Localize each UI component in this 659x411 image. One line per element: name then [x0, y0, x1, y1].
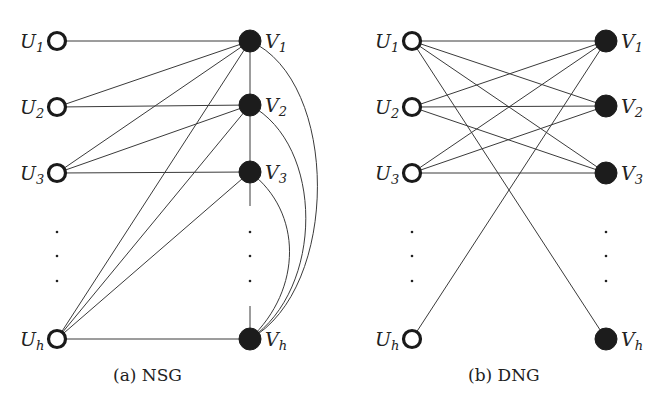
node-Uh [49, 331, 66, 348]
node-V1 [595, 30, 617, 52]
label-V1: V1 [265, 30, 287, 55]
edge-U2-V1 [57, 41, 250, 107]
label-V2: V2 [621, 95, 643, 120]
dng-edges [412, 41, 606, 339]
arc-V2-Vh [250, 105, 306, 339]
dng-panel: U1U2U3UhV1V2V3Vh (b) DNG [375, 30, 643, 385]
label-V3: V3 [621, 162, 643, 187]
nsg-panel: U1U2U3UhV1V2V3Vh (a) NSG [20, 30, 317, 385]
node-Vh [595, 328, 617, 350]
ellipsis-dot-right [605, 255, 608, 258]
label-U3: U3 [375, 162, 399, 187]
arc-V3-Vh [250, 172, 290, 339]
node-Uh [404, 331, 421, 348]
label-U1: U1 [20, 30, 44, 55]
dng-nodes: U1U2U3UhV1V2V3Vh [375, 30, 643, 353]
node-U3 [404, 165, 421, 182]
node-U3 [49, 165, 66, 182]
ellipsis-dot-right [249, 255, 252, 258]
nsg-caption: (a) NSG [113, 365, 182, 385]
node-U2 [404, 99, 421, 116]
ellipsis-dot-left [56, 280, 59, 283]
node-U1 [404, 33, 421, 50]
ellipsis-dot-left [411, 280, 414, 283]
ellipsis-dot-left [56, 231, 59, 234]
label-Uh: Uh [375, 328, 399, 353]
ellipsis-dot-left [56, 255, 59, 258]
node-V3 [595, 162, 617, 184]
node-V1 [239, 30, 261, 52]
ellipsis-dot-left [411, 255, 414, 258]
node-V2 [595, 95, 617, 117]
label-Vh: Vh [265, 328, 287, 353]
nsg-edges [57, 41, 317, 339]
ellipsis-dot-right [249, 231, 252, 234]
label-U1: U1 [375, 30, 399, 55]
edge-Uh-V3 [57, 172, 250, 339]
edge-Uh-V2 [57, 105, 250, 339]
label-V2: V2 [265, 94, 287, 119]
node-U2 [49, 99, 66, 116]
label-Uh: Uh [20, 328, 44, 353]
ellipsis-dot-right [249, 280, 252, 283]
node-V3 [239, 161, 261, 183]
ellipsis-dot-right [605, 231, 608, 234]
edge-Uh-V1 [57, 41, 250, 339]
label-V3: V3 [265, 161, 287, 186]
label-U2: U2 [20, 96, 44, 121]
label-V1: V1 [621, 30, 643, 55]
dng-caption: (b) DNG [468, 365, 540, 385]
node-U1 [49, 33, 66, 50]
ellipsis-dot-right [605, 280, 608, 283]
nsg-nodes: U1U2U3UhV1V2V3Vh [20, 30, 287, 353]
label-Vh: Vh [621, 328, 643, 353]
bipartite-graph-figure: U1U2U3UhV1V2V3Vh (a) NSG U1U2U3UhV1V2V3V… [0, 0, 659, 411]
edge-U3-V2 [57, 105, 250, 173]
arc-V1-Vh [250, 41, 317, 339]
edge-U3-V3 [57, 172, 250, 173]
node-V2 [239, 94, 261, 116]
label-U3: U3 [20, 162, 44, 187]
node-Vh [239, 328, 261, 350]
ellipsis-dot-left [411, 231, 414, 234]
label-U2: U2 [375, 96, 399, 121]
